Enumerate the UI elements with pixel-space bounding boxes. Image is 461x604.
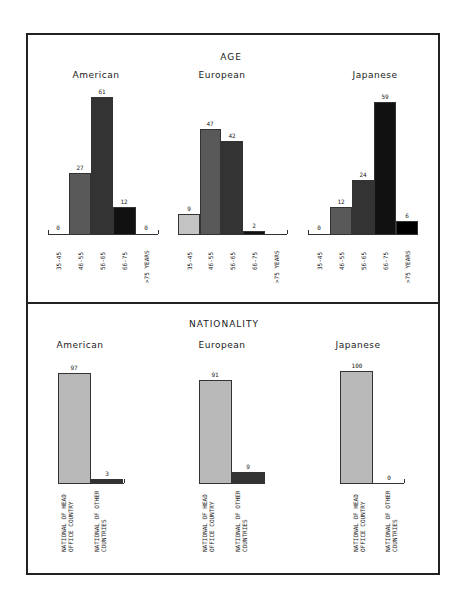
value-label: 0 bbox=[144, 224, 148, 231]
bar-american-46-55 bbox=[69, 173, 91, 235]
axis-tick bbox=[124, 479, 125, 483]
category-label: NATIONAL OF OTHERCOUNTRIES bbox=[384, 491, 398, 552]
value-label: 42 bbox=[228, 132, 235, 139]
category-label: 46-55 bbox=[338, 252, 345, 270]
value-label: 24 bbox=[359, 171, 366, 178]
value-label: 0 bbox=[317, 224, 321, 231]
bar-european-35-45 bbox=[178, 214, 200, 235]
value-label: 61 bbox=[98, 88, 105, 95]
bar-japanese-66-75 bbox=[374, 102, 396, 235]
category-label: 66-75 bbox=[382, 252, 389, 270]
category-label: >75 YEARS bbox=[273, 250, 280, 283]
age-japanese-title: Japanese bbox=[353, 70, 398, 80]
value-label: 6 bbox=[405, 212, 409, 219]
bar-european-46-55 bbox=[200, 129, 221, 235]
category-label: 56-65 bbox=[99, 252, 106, 270]
value-label: 3 bbox=[105, 470, 109, 477]
bar-american-head-office bbox=[58, 373, 91, 484]
category-label: 66-75 bbox=[121, 252, 128, 270]
value-label: 97 bbox=[70, 364, 77, 371]
age-section-title: AGE bbox=[220, 52, 242, 62]
bar-european-56-65 bbox=[221, 141, 243, 235]
nationality-american-title: American bbox=[57, 340, 104, 350]
axis-tick bbox=[48, 230, 49, 234]
category-label: 35-45 bbox=[316, 252, 323, 270]
value-label: 91 bbox=[211, 371, 218, 378]
axis-tick bbox=[404, 479, 405, 483]
value-label: 59 bbox=[381, 93, 388, 100]
value-label: 12 bbox=[120, 198, 127, 205]
axis-tick bbox=[158, 230, 159, 234]
bar-american-56-65 bbox=[91, 97, 113, 235]
value-label: 0 bbox=[56, 224, 60, 231]
category-label: NATIONAL OF OTHERCOUNTRIES bbox=[234, 491, 248, 552]
category-label: NATIONAL OF HEADOFFICE COUNTRY bbox=[352, 494, 366, 552]
axis-tick bbox=[308, 230, 309, 234]
bar-japanese-46-55 bbox=[330, 207, 352, 235]
value-label: 9 bbox=[246, 463, 250, 470]
value-label: 0 bbox=[387, 474, 391, 481]
value-label: 47 bbox=[206, 120, 213, 127]
nationality-japanese-title: Japanese bbox=[336, 340, 381, 350]
value-label: 100 bbox=[352, 362, 363, 369]
category-label: 46-55 bbox=[77, 252, 84, 270]
value-label: 9 bbox=[187, 205, 191, 212]
category-label: NATIONAL OF HEADOFFICE COUNTRY bbox=[201, 494, 215, 552]
bar-european-other bbox=[232, 472, 265, 484]
category-label: 35-45 bbox=[55, 252, 62, 270]
bar-european-head-office bbox=[199, 380, 232, 484]
axis-tick bbox=[287, 230, 288, 234]
section-divider bbox=[26, 302, 438, 304]
category-label: 56-65 bbox=[360, 252, 367, 270]
value-label: 12 bbox=[337, 198, 344, 205]
category-label: NATIONAL OF OTHERCOUNTRIES bbox=[93, 491, 107, 552]
category-label: >75 YEARS bbox=[143, 250, 150, 283]
category-label: 66-75 bbox=[251, 252, 258, 270]
bar-japanese-over-75 bbox=[396, 221, 418, 235]
nationality-european-title: European bbox=[199, 340, 246, 350]
value-label: 2 bbox=[252, 222, 256, 229]
bar-japanese-head-office bbox=[340, 371, 373, 484]
bar-american-66-75 bbox=[113, 207, 136, 235]
category-label: >75 YEARS bbox=[404, 250, 411, 283]
nationality-section-title: NATIONALITY bbox=[189, 319, 259, 329]
category-label: 35-45 bbox=[186, 252, 193, 270]
category-label: 46-55 bbox=[207, 252, 214, 270]
age-american-title: American bbox=[73, 70, 120, 80]
category-label: 56-65 bbox=[229, 252, 236, 270]
bar-japanese-56-65 bbox=[352, 180, 374, 235]
bar-european-66-75 bbox=[243, 231, 265, 235]
value-label: 27 bbox=[76, 164, 83, 171]
category-label: NATIONAL OF HEADOFFICE COUNTRY bbox=[60, 494, 74, 552]
bar-american-other bbox=[91, 479, 123, 484]
age-european-title: European bbox=[199, 70, 246, 80]
